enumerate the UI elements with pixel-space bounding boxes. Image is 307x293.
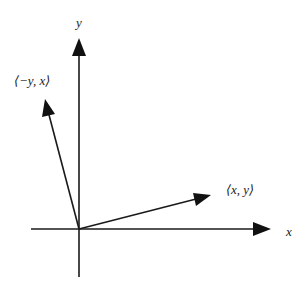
vector-neg-y-x-arrowhead-icon (42, 99, 55, 117)
diagram-canvas: y x ⟨−y, x⟩ ⟨x, y⟩ (0, 0, 307, 293)
y-axis-label: y (74, 15, 82, 30)
vector-x-y (79, 193, 211, 229)
vector-x-y-label: ⟨x, y⟩ (226, 182, 254, 197)
vector-neg-y-x-line (48, 111, 79, 229)
y-axis-arrowhead-icon (72, 38, 86, 56)
vector-neg-y-x (42, 99, 79, 229)
x-axis (31, 222, 271, 236)
x-axis-arrowhead-icon (253, 222, 271, 236)
vector-neg-y-x-label: ⟨−y, x⟩ (14, 73, 50, 88)
vector-x-y-arrowhead-icon (193, 193, 211, 206)
x-axis-label: x (285, 224, 292, 239)
y-axis (72, 38, 86, 277)
vector-x-y-line (79, 198, 200, 229)
